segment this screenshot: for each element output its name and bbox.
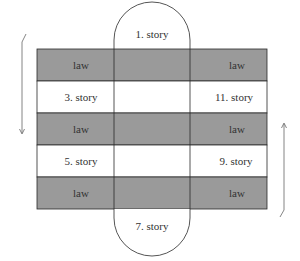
row-3-law: law law (37, 113, 267, 145)
row-3-left-label: law (73, 123, 89, 135)
row-1-law: law law (37, 49, 267, 81)
row-1-left-label: law (73, 59, 89, 71)
row-4-story: 5. story 9. story (37, 145, 267, 177)
story-law-diagram: 1. story law law 3. story 11. story law … (0, 0, 300, 261)
right-up-arrow-icon (280, 123, 287, 217)
row-4-left-label: 5. story (65, 155, 99, 167)
left-down-arrow-icon (20, 34, 27, 134)
row-5-right-label: law (229, 187, 245, 199)
top-arch (114, 2, 190, 49)
bottom-arch (114, 209, 190, 256)
row-3-right-label: law (229, 123, 245, 135)
row-4-right-label: 9. story (220, 155, 254, 167)
row-2-right-label: 11. story (215, 91, 254, 103)
row-5-law: law law (37, 177, 267, 209)
row-2-left-label: 3. story (65, 91, 99, 103)
top-arch-label: 1. story (136, 28, 170, 40)
row-5-left-label: law (73, 187, 89, 199)
row-1-right-label: law (229, 59, 245, 71)
bottom-arch-label: 7. story (136, 220, 170, 232)
row-2-story: 3. story 11. story (37, 81, 267, 113)
